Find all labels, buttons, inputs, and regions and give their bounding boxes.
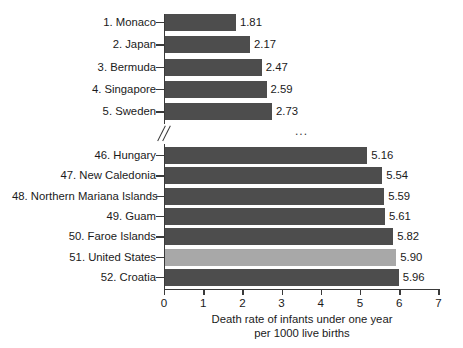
bar-row: 52. Croatia5.96: [0, 269, 463, 286]
bar-value-label: 2.73: [276, 103, 298, 120]
bar-row: 47. New Caledonia5.54: [0, 167, 463, 184]
x-axis-tick: [399, 289, 400, 295]
y-axis-tick: [156, 44, 164, 45]
x-axis-tick-label: 6: [387, 296, 411, 309]
bar-row-label: 1. Monaco: [12, 14, 156, 31]
y-axis-tick: [156, 175, 164, 176]
axis-break-slashes: [158, 122, 176, 146]
axis-break-row: ...: [0, 125, 463, 142]
y-axis-tick: [156, 236, 164, 237]
bar-row: 49. Guam5.61: [0, 208, 463, 225]
bar-value-label: 5.59: [388, 188, 410, 205]
y-axis-tick: [156, 111, 164, 112]
x-axis-title-line2: per 1000 live births: [164, 326, 440, 340]
bar-row-label: 3. Bermuda: [12, 59, 156, 76]
bar-row-label: 47. New Caledonia: [12, 167, 156, 184]
bar-value-label: 2.17: [254, 36, 276, 53]
bar-value-label: 5.61: [389, 208, 411, 225]
bar-value-label: 5.54: [386, 167, 408, 184]
y-axis-tick: [156, 89, 164, 90]
x-axis-tick: [360, 289, 361, 295]
y-axis-tick: [156, 257, 164, 258]
bar-row-label: 46. Hungary: [12, 147, 156, 164]
y-axis-tick: [156, 196, 164, 197]
x-axis-tick-label: 0: [152, 296, 176, 309]
bar-value-label: 2.47: [266, 59, 288, 76]
bar: [165, 147, 367, 164]
bar-row-label: 5. Sweden: [12, 103, 156, 120]
bar-row-label: 52. Croatia: [12, 269, 156, 286]
bar: [165, 81, 267, 98]
x-axis-tick-label: 5: [348, 296, 372, 309]
bar-value-label: 5.16: [371, 147, 393, 164]
x-axis-title: Death rate of infants under one year per…: [164, 312, 440, 340]
bar-row-label: 51. United States: [12, 249, 156, 266]
bar-value-label: 5.90: [400, 249, 422, 266]
bar-row-label: 50. Faroe Islands: [12, 228, 156, 245]
x-axis-tick-label: 4: [309, 296, 333, 309]
bar-row: 1. Monaco1.81: [0, 14, 463, 31]
bar-row: 2. Japan2.17: [0, 36, 463, 53]
bar: [165, 36, 250, 53]
infant-mortality-bar-chart: 1. Monaco1.812. Japan2.173. Bermuda2.474…: [0, 0, 463, 348]
bar: [165, 269, 399, 286]
x-axis-tick-label: 3: [270, 296, 294, 309]
bar-row-label: 2. Japan: [12, 36, 156, 53]
x-axis-tick-label: 2: [230, 296, 254, 309]
bar-row-label: 4. Singapore: [12, 81, 156, 98]
y-axis-tick: [156, 67, 164, 68]
bar: [165, 59, 262, 76]
x-axis-tick: [282, 289, 283, 295]
y-axis-tick: [156, 277, 164, 278]
bar-value-label: 5.82: [397, 228, 419, 245]
x-axis-line: [164, 289, 439, 290]
bar: [165, 188, 384, 205]
bar-row-label: 48. Northern Mariana Islands: [12, 188, 156, 205]
axis-break-ellipsis: ...: [295, 125, 308, 142]
plot-area: 1. Monaco1.812. Japan2.173. Bermuda2.474…: [0, 0, 463, 348]
y-axis-tick: [156, 22, 164, 23]
y-axis-tick: [156, 216, 164, 217]
bar-value-label: 1.81: [240, 14, 262, 31]
bar-row: 48. Northern Mariana Islands5.59: [0, 188, 463, 205]
bar: [165, 228, 393, 245]
x-axis-title-line1: Death rate of infants under one year: [164, 312, 440, 326]
bar-row: 3. Bermuda2.47: [0, 59, 463, 76]
bar: [165, 208, 385, 225]
bar: [165, 14, 236, 31]
x-axis-tick: [438, 289, 439, 295]
bar-row: 4. Singapore2.59: [0, 81, 463, 98]
bar-row: 51. United States5.90: [0, 249, 463, 266]
x-axis-tick: [321, 289, 322, 295]
bar-row: 46. Hungary5.16: [0, 147, 463, 164]
bar-row-label: 49. Guam: [12, 208, 156, 225]
bar-value-label: 5.96: [403, 269, 425, 286]
bar: [165, 167, 382, 184]
x-axis-tick: [203, 289, 204, 295]
y-axis-tick: [156, 155, 164, 156]
x-axis-tick-label: 1: [191, 296, 215, 309]
bar-row: 50. Faroe Islands5.82: [0, 228, 463, 245]
x-axis-tick-label: 7: [426, 296, 450, 309]
x-axis-tick: [242, 289, 243, 295]
bar-highlighted: [165, 249, 396, 266]
bar-row: 5. Sweden2.73: [0, 103, 463, 120]
bar-value-label: 2.59: [271, 81, 293, 98]
x-axis-tick: [164, 289, 165, 295]
bar: [165, 103, 272, 120]
